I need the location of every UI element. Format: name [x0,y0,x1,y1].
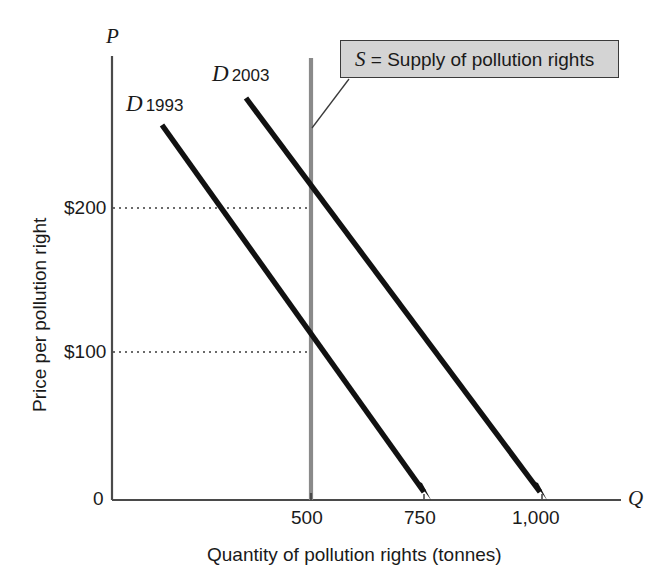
ytick-label-200: $200 [64,198,106,217]
y-axis-title: Price per pollution right [30,218,49,412]
x-axis-title: Quantity of pollution rights (tonnes) [207,545,502,564]
xtick-label-1000: 1,000 [512,508,560,527]
q-axis-letter: Q [628,488,643,509]
demand-curve-1993 [162,125,424,492]
demand-curve-2003 [246,98,540,492]
demand-1993-year: 1993 [146,96,184,115]
supply-legend-description: Supply of pollution rights [387,49,594,70]
demand-curve-2003-label: D2003 [212,62,269,85]
supply-legend-box: S = Supply of pollution rights [340,40,619,78]
demand-1993-letter: D [126,91,146,116]
ytick-label-0: 0 [93,489,104,508]
xtick-label-750: 750 [404,508,436,527]
demand-2003-letter: D [212,61,232,86]
legend-leader-line [312,79,349,128]
p-axis-letter: P [106,26,119,47]
pollution-rights-supply-demand-chart: P Q Price per pollution right Quantity o… [0,0,672,588]
demand-2003-year: 2003 [232,66,270,85]
supply-legend-text: S = Supply of pollution rights [355,47,594,72]
supply-legend-symbol: S [355,47,366,71]
xtick-label-500: 500 [291,508,323,527]
ytick-label-100: $100 [64,342,106,361]
demand-curve-1993-label: D1993 [126,92,183,115]
supply-legend-equals-and-text: = Supply of pollution rights [366,49,595,70]
